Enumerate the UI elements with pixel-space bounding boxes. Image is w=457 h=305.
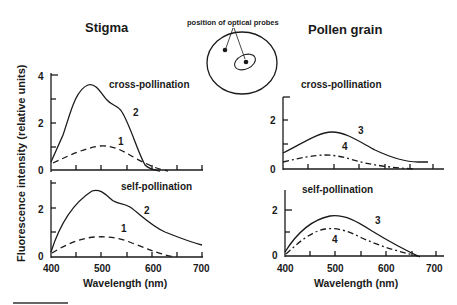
ytick-2-rb: 2 <box>272 205 278 216</box>
ytick-0-rb: 0 <box>272 250 278 261</box>
xtick-400: 400 <box>43 263 60 274</box>
label-self-left: self-pollination <box>121 181 192 192</box>
series-label-3-bottom: 3 <box>375 215 381 226</box>
ytick-4: 4 <box>38 71 44 82</box>
ytick-0-r: 0 <box>270 164 276 175</box>
x-axis-label-right: Wavelength (nm) <box>314 277 398 289</box>
series-label-4-top: 4 <box>342 141 348 152</box>
label-self-right: self-pollination <box>302 184 373 195</box>
series-label-1-top: 1 <box>118 136 124 147</box>
xtick-700-r: 700 <box>426 263 443 274</box>
panel-pollen-self <box>285 190 444 257</box>
series-label-4-bottom: 4 <box>332 234 338 245</box>
xtick-500: 500 <box>94 263 111 274</box>
label-cross-right: cross-pollination <box>301 79 382 90</box>
ytick-0-b: 0 <box>38 251 44 262</box>
x-axis-label-left: Wavelength (nm) <box>83 277 167 289</box>
y-axis-label: Fluorescence intensity (relative units) <box>15 64 27 262</box>
series-label-3-top: 3 <box>358 125 364 136</box>
series-label-2-top: 2 <box>133 107 139 118</box>
xtick-700: 700 <box>193 263 210 274</box>
series-label-1-bottom: 1 <box>121 223 127 234</box>
inset-diagram <box>207 28 277 94</box>
xtick-400-r: 400 <box>277 263 294 274</box>
title-pollen-grain: Pollen grain <box>308 22 382 37</box>
xtick-600: 600 <box>145 263 162 274</box>
series-label-2-bottom: 2 <box>144 205 150 216</box>
ytick-2: 2 <box>38 118 44 129</box>
ytick-2-b: 2 <box>38 204 44 215</box>
title-stigma: Stigma <box>85 20 129 35</box>
xtick-600-r: 600 <box>378 263 395 274</box>
xtick-500-r: 500 <box>327 263 344 274</box>
label-cross-left: cross-pollination <box>109 79 190 90</box>
figure: Stigma Pollen grain position of optical … <box>0 0 457 305</box>
ytick-2-r: 2 <box>270 115 276 126</box>
inset-label: position of optical probes <box>187 18 279 27</box>
ytick-0: 0 <box>38 165 44 176</box>
